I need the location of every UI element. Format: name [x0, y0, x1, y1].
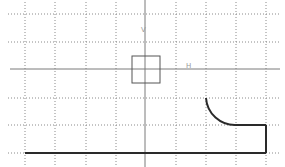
sketch-canvas[interactable]: H V	[0, 0, 285, 167]
profile-arc[interactable]	[206, 98, 236, 125]
v-axis-label: V	[141, 26, 146, 34]
h-axis-label: H	[186, 62, 191, 70]
